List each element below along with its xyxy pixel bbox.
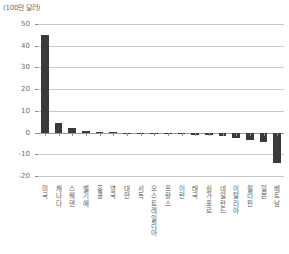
x-axis-tick-label: 이탈리아 [232,186,240,216]
bar [273,133,281,163]
x-axis-tick-mark [223,133,224,136]
x-axis-tick-label: 스웨덴 [68,186,76,208]
x-axis-tick-label: 일본 [260,186,268,201]
x-axis-tick-mark [195,133,196,136]
x-axis-tick-label: 프랑스 [164,186,172,208]
y-axis-tick-label: 0 [0,129,30,137]
x-axis-tick-mark [59,133,60,136]
x-axis-tick-mark [127,133,128,136]
x-axis-tick-label: 이란 [178,186,186,201]
y-axis-tick-label: 10 [0,107,30,115]
bars-layer [38,24,284,176]
plot-area [38,24,284,176]
y-axis-tick-label: -10 [0,150,30,158]
x-axis-tick-labels: 미국캐나다스웨덴벨기에홍콩영국대만서독오스트레일리아프랑스이란태국싱가포르네덜란… [38,186,284,252]
bar [41,35,49,133]
x-axis-tick-label: 태국 [191,186,199,201]
bar-chart: (100만 달러) 50403020100-10-20 미국캐나다스웨덴벨기에홍… [0,0,289,254]
y-axis-tick-label: 20 [0,85,30,93]
x-axis-tick-label: 영국 [109,186,117,201]
x-axis-tick-mark [277,133,278,136]
x-axis-tick-mark [209,133,210,136]
y-axis-tick-mark [35,176,38,177]
x-axis-tick-label: 벨기에 [82,186,90,208]
x-axis-tick-label: 캐나다 [55,186,63,208]
y-axis-tick-mark [35,67,38,68]
x-axis-tick-label: 미국 [41,186,49,201]
x-axis-tick-mark [100,133,101,136]
y-axis-tick-label: 30 [0,63,30,71]
x-axis-tick-mark [168,133,169,136]
x-axis-tick-label: 베트남 [273,186,281,208]
x-axis-tick-label: 싱가포르 [205,186,213,216]
bar [55,123,63,132]
y-axis-tick-mark [35,46,38,47]
y-axis-tick-label: 50 [0,20,30,28]
x-axis-tick-mark [182,133,183,136]
x-axis-tick-mark [141,133,142,136]
x-axis-tick-mark [72,133,73,136]
x-axis-tick-mark [154,133,155,136]
y-axis-tick-mark [35,154,38,155]
x-axis-tick-label: 대만 [123,186,131,201]
x-axis-tick-label: 오스트레일리아 [150,186,158,238]
x-axis-tick-label: 네덜란드 [219,186,227,216]
y-axis-tick-label: 40 [0,42,30,50]
y-axis-tick-mark [35,89,38,90]
y-axis-tick-label: -20 [0,172,30,180]
y-axis-tick-mark [35,133,38,134]
y-axis-tick-mark [35,111,38,112]
x-axis-tick-mark [86,133,87,136]
x-axis-tick-mark [113,133,114,136]
x-axis-tick-mark [45,133,46,136]
x-axis-tick-mark [236,133,237,136]
unit-label: (100만 달러) [3,2,40,12]
x-axis-tick-label: 홍콩 [96,186,104,201]
y-axis-tick-mark [35,24,38,25]
x-axis-tick-label: 서독 [137,186,145,201]
x-axis-tick-mark [264,133,265,136]
x-axis-tick-label: 필리핀 [246,186,254,208]
gridline [38,176,284,177]
x-axis-tick-mark [250,133,251,136]
